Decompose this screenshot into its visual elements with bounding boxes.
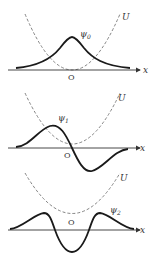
origin-label: O	[64, 151, 71, 160]
panel-psi2: ψ2 U x O	[8, 173, 145, 252]
wave-label: ψ1	[58, 113, 69, 124]
wave-curve	[16, 37, 130, 68]
wave-label: ψ0	[80, 29, 91, 40]
axis-label: x	[140, 143, 145, 153]
potential-label: U	[118, 93, 126, 103]
origin-label: O	[68, 73, 75, 82]
potential-label: U	[120, 173, 128, 183]
potential-label: U	[122, 12, 130, 22]
wave-label: ψ2	[110, 205, 121, 216]
potential-curve	[25, 93, 120, 144]
axis-label: x	[140, 225, 145, 235]
potential-curve	[25, 14, 120, 70]
axis-label: x	[143, 65, 148, 75]
potential-curve	[25, 173, 120, 214]
panel-psi1: ψ1 U x O	[8, 93, 145, 171]
wavefunction-diagram: ψ0 U x O ψ1 U x O ψ2 U x O	[0, 0, 160, 255]
origin-label: O	[68, 218, 75, 227]
panel-psi0: ψ0 U x O	[8, 12, 148, 82]
